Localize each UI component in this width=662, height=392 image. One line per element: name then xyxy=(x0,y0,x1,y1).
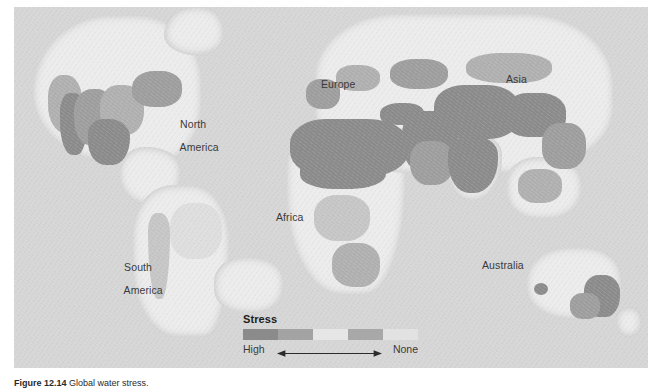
legend-title: Stress xyxy=(243,313,423,325)
map-label-europe-text: Europe xyxy=(321,78,355,90)
map-label-australia: Australia xyxy=(482,260,524,272)
map-label-asia: Asia xyxy=(506,74,527,86)
figure-caption-text: Global water stress. xyxy=(69,378,149,388)
map-label-australia-text: Australia xyxy=(482,259,524,271)
map-label-north-america-line2: America xyxy=(180,141,219,153)
map-label-north-america-line1: North xyxy=(180,118,206,130)
map-label-asia-text: Asia xyxy=(506,73,527,85)
legend-label-none: None xyxy=(393,343,418,355)
figure-water-stress-map: North America South America Europe Afric… xyxy=(0,0,662,392)
legend-gradient-bar xyxy=(243,329,418,340)
figure-caption-number: Figure 12.14 xyxy=(14,378,67,388)
figure-caption: Figure 12.14 Global water stress. xyxy=(14,378,654,391)
legend-label-high: High xyxy=(243,343,265,355)
double-arrow-icon xyxy=(277,349,382,358)
map-label-south-america-line1: South xyxy=(124,261,152,273)
map-legend: Stress High None xyxy=(243,313,423,358)
legend-swatch-none xyxy=(383,329,418,340)
legend-swatch-medium-high xyxy=(278,329,313,340)
map-label-europe: Europe xyxy=(321,79,355,91)
map-label-africa: Africa xyxy=(276,212,303,224)
map-label-south-america-line2: America xyxy=(124,284,163,296)
legend-swatch-medium xyxy=(313,329,348,340)
map-label-north-america: North America xyxy=(162,107,219,165)
map-label-south-america: South America xyxy=(106,250,163,308)
legend-scale: High None xyxy=(243,342,418,358)
map-label-africa-text: Africa xyxy=(276,211,303,223)
legend-swatch-low xyxy=(348,329,383,340)
legend-swatch-high xyxy=(243,329,278,340)
